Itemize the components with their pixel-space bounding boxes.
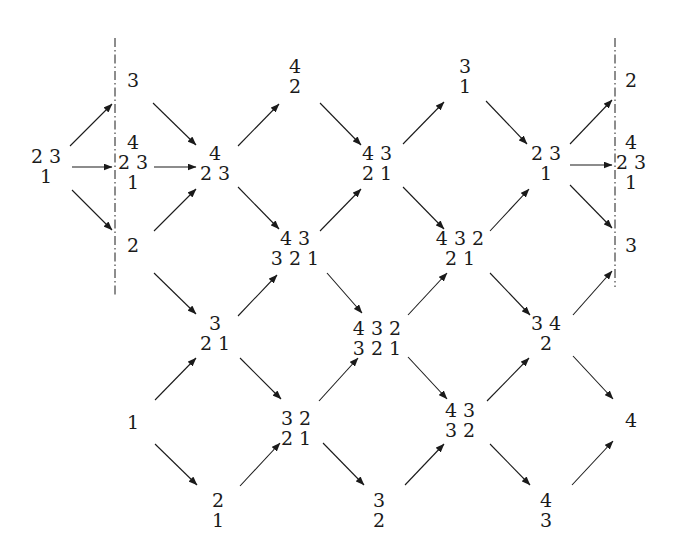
node-row-label: 2 3 (616, 152, 646, 172)
arrow-edge-n18-n22 (573, 271, 612, 315)
lattice-node: 3 (127, 70, 139, 90)
arrow-edge-n4-n6 (238, 187, 279, 229)
arrow-edge-n10-n12 (319, 358, 358, 401)
node-row-label: 4 (616, 132, 646, 152)
lattice-node: 42 31 (616, 132, 646, 192)
arrow-edge-n11-n15 (403, 187, 444, 229)
lattice-diagram: 2 31342 31242 3424 33 2 132 11213 22 14 … (0, 0, 687, 558)
node-row-label: 1 (459, 76, 471, 96)
arrow-edge-n7-n6 (238, 275, 277, 316)
arrow-edge-n8-n7 (155, 358, 196, 400)
edges-layer (0, 0, 687, 558)
node-row-label: 1 (127, 412, 139, 432)
node-row-label: 2 3 (31, 146, 61, 166)
arrow-edge-n19-n23 (572, 441, 613, 485)
node-row-label: 4 (200, 143, 230, 163)
node-row-label: 4 3 (271, 228, 319, 248)
lattice-node: 4 3 22 1 (436, 228, 484, 268)
node-row-label: 2 1 (281, 428, 311, 448)
arrow-edge-n6-n12 (327, 273, 362, 313)
node-row-label: 3 (127, 70, 139, 90)
arrow-edge-n11-n14 (403, 102, 444, 144)
lattice-node: 32 1 (200, 313, 230, 353)
node-row-label: 2 (212, 490, 224, 510)
node-row-label: 4 3 2 (436, 228, 484, 248)
arrow-edge-n16-n18 (487, 358, 529, 401)
lattice-node: 3 (625, 235, 637, 255)
node-row-label: 4 3 2 (353, 318, 401, 338)
lattice-node: 1 (127, 412, 139, 432)
arrow-edge-n17-n20 (570, 100, 612, 144)
node-row-label: 1 (212, 510, 224, 530)
lattice-node: 3 42 (531, 313, 561, 353)
node-row-label: 2 3 (531, 143, 561, 163)
arrow-edge-n17-n22 (570, 185, 612, 228)
node-row-label: 2 (531, 333, 561, 353)
lattice-node: 21 (212, 490, 224, 530)
arrow-edge-n0-n1 (70, 104, 112, 146)
arrow-edge-n0-n3 (72, 190, 112, 230)
lattice-node: 31 (459, 56, 471, 96)
node-row-label: 2 3 (200, 163, 230, 183)
arrow-edge-n18-n23 (573, 356, 613, 399)
arrow-edge-n12-n16 (408, 357, 447, 399)
arrow-edge-n5-n11 (320, 103, 361, 145)
node-row-label: 2 (127, 235, 139, 255)
node-row-label: 4 (289, 56, 301, 76)
node-row-label: 1 (31, 166, 61, 186)
node-row-label: 3 2 1 (353, 338, 401, 358)
lattice-node: 32 (373, 490, 385, 530)
lattice-node: 3 22 1 (281, 408, 311, 448)
arrow-edge-n16-n19 (490, 444, 530, 485)
node-row-label: 2 (289, 76, 301, 96)
node-row-label: 1 (118, 172, 148, 192)
node-row-label: 2 1 (362, 163, 392, 183)
node-row-label: 2 1 (436, 248, 484, 268)
arrow-edge-n8-n9 (155, 444, 197, 485)
node-row-label: 3 (459, 56, 471, 76)
arrow-edge-n3-n4 (154, 189, 196, 231)
lattice-node: 42 31 (118, 132, 148, 192)
arrow-edge-n15-n18 (490, 273, 530, 315)
node-row-label: 3 2 (281, 408, 311, 428)
arrow-edge-n7-n10 (240, 358, 281, 399)
node-row-label: 3 2 1 (271, 248, 319, 268)
node-row-label: 2 (373, 510, 385, 530)
arrow-edge-n13-n16 (405, 444, 444, 485)
lattice-node: 2 (127, 235, 139, 255)
lattice-node: 4 32 1 (362, 143, 392, 183)
lattice-node: 4 33 2 1 (271, 228, 319, 268)
node-row-label: 3 (540, 510, 552, 530)
arrow-edge-n14-n17 (486, 101, 527, 144)
lattice-node: 2 31 (531, 143, 561, 183)
node-row-label: 4 (540, 490, 552, 510)
lattice-node: 2 31 (31, 146, 61, 186)
node-row-label: 1 (531, 163, 561, 183)
arrow-edge-n10-n13 (323, 443, 364, 485)
lattice-node: 43 (540, 490, 552, 530)
node-row-label: 4 (118, 132, 148, 152)
arrow-edge-n9-n10 (240, 443, 280, 486)
lattice-node: 4 (625, 410, 637, 430)
arrow-edge-n4-n5 (238, 104, 279, 146)
node-row-label: 2 1 (200, 333, 230, 353)
node-row-label: 3 (200, 313, 230, 333)
lattice-node: 42 3 (200, 143, 230, 183)
node-row-label: 4 3 (362, 143, 392, 163)
node-row-label: 4 3 (445, 400, 475, 420)
lattice-node: 4 33 2 (445, 400, 475, 440)
node-row-label: 1 (616, 172, 646, 192)
arrow-edge-n6-n11 (320, 189, 361, 231)
node-row-label: 2 3 (118, 152, 148, 172)
node-row-label: 3 2 (445, 420, 475, 440)
lattice-node: 42 (289, 56, 301, 96)
node-row-label: 3 (373, 490, 385, 510)
arrow-edge-n12-n15 (408, 273, 447, 315)
node-row-label: 3 4 (531, 313, 561, 333)
node-row-label: 2 (625, 70, 637, 90)
lattice-node: 4 3 23 2 1 (353, 318, 401, 358)
lattice-node: 2 (625, 70, 637, 90)
arrow-edge-n3-n7 (154, 273, 196, 314)
node-row-label: 4 (625, 410, 637, 430)
arrow-edge-n15-n17 (490, 189, 529, 231)
